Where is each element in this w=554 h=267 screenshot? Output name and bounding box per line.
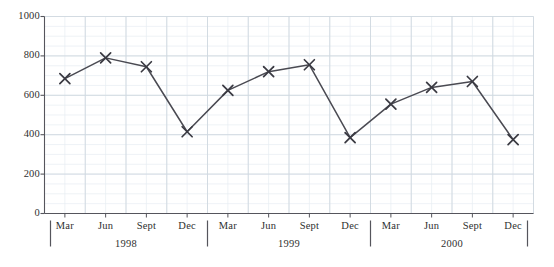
x-axis-tick-label: Sept [463, 220, 482, 231]
x-axis-tick-label: Jun [424, 220, 439, 231]
x-axis-tick-label: Mar [382, 220, 400, 231]
x-axis-group-label: 1999 [278, 238, 300, 249]
line-chart: 02004006008001000 MarJunSeptDecMarJunSep… [0, 0, 554, 267]
x-axis-tick-label: Mar [219, 220, 237, 231]
x-axis-tick-label: Dec [504, 220, 522, 231]
x-axis-group-label: 2000 [441, 238, 463, 249]
y-axis-ticks [41, 17, 45, 214]
x-axis-tick-label: Sept [137, 220, 156, 231]
x-axis-tick-label: Dec [341, 220, 359, 231]
x-axis-group-label: 1998 [115, 238, 137, 249]
x-axis-ticks [65, 214, 513, 218]
x-axis-tick-label: Mar [56, 220, 74, 231]
x-axis-tick-label: Dec [178, 220, 196, 231]
x-axis-tick-label: Jun [261, 220, 276, 231]
x-axis-tick-label: Jun [98, 220, 113, 231]
x-axis-tick-label: Sept [300, 220, 319, 231]
